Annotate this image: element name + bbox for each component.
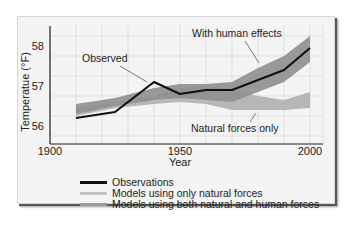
x-tick-label: 2000 [298,145,322,157]
legend-swatch [80,203,107,206]
y-axis-label: Temperatue (°F) [19,52,31,132]
x-axis-label: Year [169,156,192,168]
y-tick-label: 58 [32,40,44,52]
x-tick-label: 1900 [38,145,62,157]
annotation-natural-only: Natural forces only [191,122,279,134]
legend-swatch [80,181,107,184]
legend: Observations Models using only natural f… [80,177,319,210]
annotation-human-effects: With human effects [192,27,282,39]
annotation-observed: Observed [82,52,128,64]
y-tick-label: 57 [32,80,44,92]
legend-swatch [80,192,107,195]
y-tick-label: 56 [32,120,44,132]
legend-item-human: Models using both natural and human forc… [80,199,319,210]
legend-label: Models using both natural and human forc… [112,199,319,210]
